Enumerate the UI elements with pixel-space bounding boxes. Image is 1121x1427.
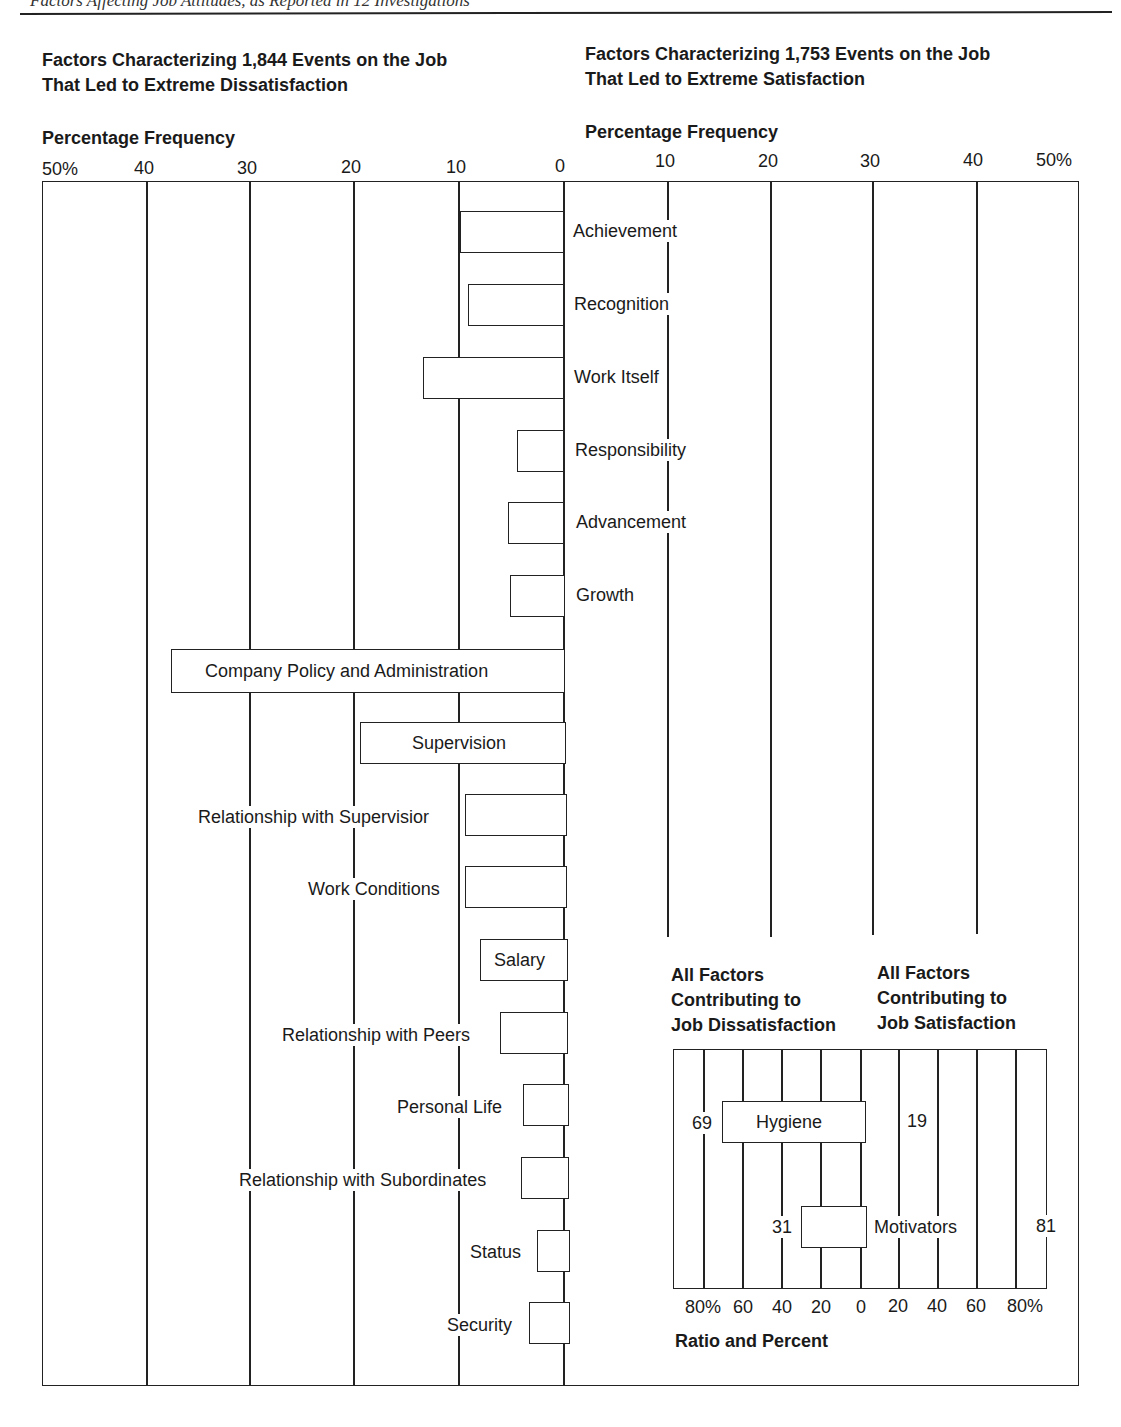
inset-value-hygiene-dissatisfaction: 69 <box>692 1112 712 1134</box>
label-relationship-subordinates: Relationship with Subordinates <box>238 1169 487 1191</box>
running-head: Factors Affecting Job Attitudes, as Repo… <box>30 0 470 11</box>
bar-security <box>529 1302 570 1344</box>
bar-personal-life <box>523 1084 569 1126</box>
tick-right-10: 10 <box>655 151 675 172</box>
right-chart-title: Factors Characterizing 1,753 Events on t… <box>585 42 990 92</box>
label-advancement: Advancement <box>575 511 687 533</box>
inset-gridline-20-left <box>820 1050 822 1288</box>
inset-right-title-line1: All Factors <box>877 961 1016 986</box>
bar-responsibility <box>517 430 564 472</box>
tick-left-40: 40 <box>134 158 154 179</box>
left-chart-title: Factors Characterizing 1,844 Events on t… <box>42 48 447 98</box>
inset-left-title-line2: Contributing to <box>671 988 836 1013</box>
left-axis-label: Percentage Frequency <box>42 128 235 149</box>
label-growth: Growth <box>575 584 635 606</box>
right-axis-label: Percentage Frequency <box>585 122 778 143</box>
inset-tick-20-left: 20 <box>811 1297 831 1318</box>
inset-tick-60-right: 60 <box>966 1296 986 1317</box>
left-title-line1: Factors Characterizing 1,844 Events on t… <box>42 48 447 73</box>
label-relationship-peers: Relationship with Peers <box>281 1024 471 1046</box>
label-achievement: Achievement <box>572 220 678 242</box>
inset-tick-80-left: 80% <box>685 1297 721 1318</box>
inset-tick-80-right: 80% <box>1007 1296 1043 1317</box>
inset-bar-motivators <box>801 1206 867 1248</box>
bar-relationship-supervisor <box>465 794 567 836</box>
inset-right-title-line2: Contributing to <box>877 986 1016 1011</box>
tick-right-30: 30 <box>860 151 880 172</box>
tick-left-50: 50% <box>42 159 78 180</box>
gridline-right-40 <box>976 182 978 934</box>
bar-work-itself <box>423 357 564 399</box>
inset-value-motivators-dissatisfaction: 31 <box>772 1216 792 1238</box>
gridline-right-30 <box>872 182 874 935</box>
tick-right-50: 50% <box>1036 150 1072 171</box>
inset-tick-0: 0 <box>856 1297 866 1318</box>
bar-relationship-peers <box>500 1012 568 1054</box>
inset-gridline-80-right <box>1015 1050 1017 1288</box>
label-supervision: Supervision <box>412 733 506 754</box>
inset-gridline-60-right <box>976 1050 978 1288</box>
inset-zero-line <box>860 1050 862 1288</box>
inset-value-motivators-satisfaction: 81 <box>1036 1215 1056 1237</box>
inset-gridline-80-left <box>703 1050 705 1288</box>
label-status: Status <box>469 1241 522 1263</box>
label-security: Security <box>446 1314 513 1336</box>
inset-left-title-line1: All Factors <box>671 963 836 988</box>
inset-right-title-line3: Job Satisfaction <box>877 1011 1016 1036</box>
inset-value-hygiene-satisfaction: 19 <box>907 1110 927 1132</box>
tick-left-10: 10 <box>446 157 466 178</box>
tick-left-0: 0 <box>555 156 565 177</box>
tick-right-20: 20 <box>758 151 778 172</box>
inset-tick-40-left: 40 <box>772 1297 792 1318</box>
tick-left-20: 20 <box>341 157 361 178</box>
label-relationship-supervisor: Relationship with Supervisior <box>197 806 430 828</box>
gridline-left-40 <box>146 182 148 1386</box>
label-salary: Salary <box>494 950 545 971</box>
bar-recognition <box>468 284 564 326</box>
tick-right-40: 40 <box>963 150 983 171</box>
inset-left-title: All Factors Contributing to Job Dissatis… <box>671 963 836 1038</box>
inset-right-title: All Factors Contributing to Job Satisfac… <box>877 961 1016 1036</box>
tick-left-30: 30 <box>237 158 257 179</box>
inset-label-hygiene: Hygiene <box>756 1112 822 1133</box>
inset-label-motivators: Motivators <box>874 1216 957 1238</box>
header-rule <box>20 11 1112 15</box>
inset-tick-60-left: 60 <box>733 1297 753 1318</box>
bar-growth <box>510 575 565 617</box>
inset-gridline-40-left <box>781 1050 783 1288</box>
inset-left-title-line3: Job Dissatisfaction <box>671 1013 836 1038</box>
gridline-left-20 <box>353 182 355 1386</box>
inset-gridline-60-left <box>742 1050 744 1288</box>
inset-tick-40-right: 40 <box>927 1296 947 1317</box>
label-responsibility: Responsibility <box>574 439 687 461</box>
label-work-itself: Work Itself <box>573 366 660 388</box>
inset-tick-20-right: 20 <box>888 1296 908 1317</box>
bar-status <box>537 1230 570 1272</box>
bar-work-conditions <box>465 866 567 908</box>
bar-advancement <box>508 502 564 544</box>
label-recognition: Recognition <box>573 293 670 315</box>
label-company-policy: Company Policy and Administration <box>205 661 488 682</box>
right-title-line1: Factors Characterizing 1,753 Events on t… <box>585 42 990 67</box>
gridline-right-20 <box>770 182 772 937</box>
bar-achievement <box>460 211 564 253</box>
gridline-left-30 <box>249 182 251 1386</box>
inset-gridline-40-right <box>937 1050 939 1288</box>
left-title-line2: That Led to Extreme Dissatisfaction <box>42 73 447 98</box>
label-personal-life: Personal Life <box>396 1096 503 1118</box>
label-work-conditions: Work Conditions <box>307 878 441 900</box>
right-title-line2: That Led to Extreme Satisfaction <box>585 67 990 92</box>
bar-relationship-subordinates <box>521 1157 569 1199</box>
inset-xlabel: Ratio and Percent <box>675 1331 828 1352</box>
inset-gridline-20-right <box>898 1050 900 1288</box>
